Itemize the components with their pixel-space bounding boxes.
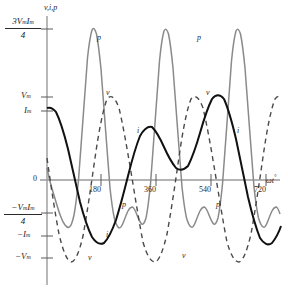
y-tick-label-3vmim4: 3VmIm 4 [5, 17, 41, 40]
y-tick-label-neg-im: −Im [17, 229, 30, 239]
y-tick-3vmim4-denominator: 4 [5, 30, 41, 40]
origin-label: 0 [33, 174, 37, 183]
y-tick-3vmim4-bar [5, 28, 41, 29]
y-axis-title: v,i,p [44, 3, 57, 12]
annotation-p-1: p [97, 33, 101, 42]
annotation-v-4: v [182, 251, 186, 260]
x-tick-label-720: 720 [254, 185, 266, 194]
annotation-p-4: p [216, 200, 220, 209]
y-tick-label-neg-vm: −Vm [15, 251, 31, 261]
chart-canvas [0, 0, 288, 289]
y-tick-label-im: Im [24, 105, 31, 115]
annotation-i-2: i [237, 126, 239, 135]
y-axis-title-p: p [53, 3, 57, 12]
x-tick-label-540: 540 [199, 185, 211, 194]
annotation-i-1: i [137, 126, 139, 135]
y-tick-neg-vmim4-denominator: 4 [4, 216, 42, 226]
series-p-curve [47, 29, 280, 228]
y-tick-neg-vmim4-bar [4, 214, 42, 215]
annotation-v-3: v [88, 253, 92, 262]
x-tick-label-360: 360 [144, 185, 156, 194]
annotation-p-3: p [122, 200, 126, 209]
y-tick-label-neg-vmim4: −VmIm 4 [4, 203, 42, 226]
annotation-p-2: p [197, 33, 201, 42]
series-i-curve [47, 95, 281, 244]
y-tick-neg-vmim4-numerator: −VmIm [4, 203, 42, 213]
chart-figure: v,i,p 3VmIm 4 Vm Im 0 −VmIm 4 −Im −Vm 18… [0, 0, 288, 289]
annotation-v-2: v [206, 88, 210, 97]
x-tick-label-180: 180 [89, 185, 101, 194]
y-tick-3vmim4-numerator: 3VmIm [5, 17, 41, 27]
annotation-v-1: v [106, 88, 110, 97]
annotation-i-3: i [106, 230, 108, 239]
x-axis-title: ωt° [266, 174, 276, 185]
y-tick-label-vm: Vm [21, 90, 31, 100]
